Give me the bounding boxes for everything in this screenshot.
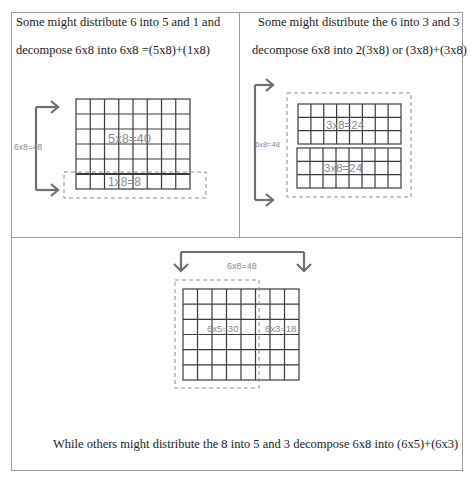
panel-2-bracket-label: 6x8=48: [255, 140, 280, 149]
panel-3-grid: [183, 289, 299, 380]
panel-2-diagram: 6x8=48 3x8=24 3x8: [255, 79, 411, 206]
panel-3-diagram: 6x8=48 6x5=30 6x3=18: [174, 252, 311, 388]
panel-3-part-2-label: 6x3=18: [265, 323, 296, 334]
panel-2-part-1-label: 3x8=24: [326, 119, 365, 131]
panel-1-bracket-label: 6x8=48: [14, 142, 42, 152]
panel-3-part-1-label: 6x5=30: [207, 323, 238, 334]
panel-1-part-2-label: 1x8=8: [108, 175, 141, 189]
panel-1-part-1-label: 5x8=40: [108, 131, 151, 146]
diagram-canvas: 6x8=48 5x8=40 1x8=8 6x: [0, 0, 474, 484]
panel-2-part-2-label: 3x8=24: [324, 162, 363, 174]
panel-3-bracket-label: 6x8=48: [227, 261, 257, 271]
panel-1-diagram: 6x8=48 5x8=40 1x8=8: [14, 99, 206, 198]
